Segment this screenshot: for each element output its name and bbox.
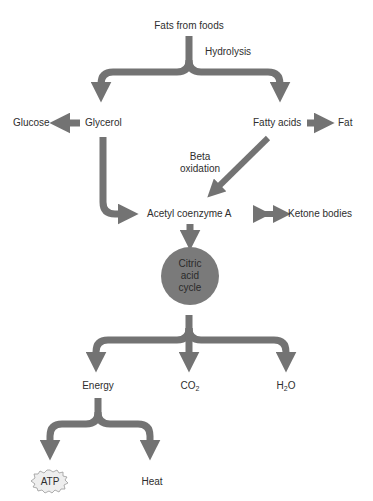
energy-label: Energy [82, 380, 114, 392]
energy-split-arrow [50, 398, 150, 448]
citric-line-1: Citric [160, 258, 220, 270]
glycerol-to-acetyl-arrow [103, 137, 126, 214]
ketone-bodies-label: Ketone bodies [288, 208, 352, 220]
atp-label: ATP [41, 476, 60, 488]
citric-acid-cycle-label: Citric acid cycle [160, 258, 220, 294]
heat-label: Heat [141, 476, 162, 488]
fat-label: Fat [338, 117, 352, 129]
glycerol-label: Glycerol [85, 117, 122, 129]
fats-from-foods-label: Fats from foods [154, 20, 223, 32]
citric-line-2: acid [160, 270, 220, 282]
hydrolysis-label: Hydrolysis [205, 46, 251, 58]
arrows-layer [0, 0, 373, 501]
glucose-label: Glucose [13, 117, 50, 129]
co2-base: CO [181, 380, 196, 391]
beta-oxidation-arrow [215, 138, 268, 190]
citric-line-3: cycle [160, 282, 220, 294]
acetyl-coa-label: Acetyl coenzyme A [147, 208, 231, 220]
h2o-label: H2O [277, 380, 296, 392]
fat-metabolism-diagram: Fats from foods Hydrolysis Glucose Glyce… [0, 0, 373, 501]
h2o-o: O [288, 380, 296, 391]
beta-label: Beta [190, 151, 211, 163]
citric-products-split-arrow [96, 315, 286, 360]
oxidation-label: oxidation [180, 163, 220, 175]
co2-label: CO2 [181, 380, 200, 392]
hydrolysis-split-arrow [101, 36, 280, 90]
fatty-acids-label: Fatty acids [253, 117, 301, 129]
co2-subscript: 2 [196, 385, 200, 392]
